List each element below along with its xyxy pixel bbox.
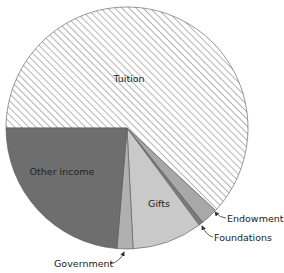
label-other-income: Other income	[30, 166, 95, 177]
pie-chart: Tuition Other income Gifts Endowments Fo…	[0, 0, 284, 273]
leader-foundations	[202, 226, 213, 237]
label-foundations: Foundations	[214, 232, 272, 243]
label-tuition: Tuition	[112, 73, 144, 84]
label-gifts: Gifts	[148, 198, 170, 209]
label-government: Government	[54, 258, 114, 269]
label-endowments: Endowments	[227, 213, 284, 224]
leader-endowments	[215, 212, 226, 218]
slice-other-income	[6, 128, 127, 249]
